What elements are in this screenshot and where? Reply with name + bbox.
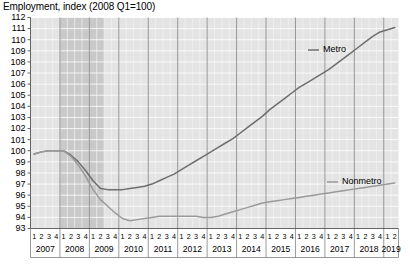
x-axis-quarter-label: 2: [128, 232, 132, 241]
x-axis-quarter-label: 1: [268, 232, 272, 241]
x-axis-quarter-label: 1: [385, 232, 389, 241]
x-axis-quarter-label: 4: [113, 232, 117, 241]
y-axis-tick-label: 97: [15, 179, 25, 189]
y-axis-tick-label: 105: [10, 90, 25, 100]
x-axis-quarter-label: 4: [172, 232, 176, 241]
y-axis-tick-label: 101: [10, 135, 25, 145]
x-axis-quarter-label: 3: [76, 232, 80, 241]
y-axis-tick-label: 95: [15, 201, 25, 211]
x-axis-quarter-label: 2: [305, 232, 309, 241]
x-axis-quarter-label: 1: [179, 232, 183, 241]
y-axis-tick-label: 99: [15, 157, 25, 167]
x-axis-quarter-label: 1: [209, 232, 213, 241]
y-axis-tick-label: 111: [12, 23, 26, 33]
x-axis-quarter-label: 2: [98, 232, 102, 241]
x-axis-quarter-label: 4: [349, 232, 353, 241]
x-axis-quarter-label: 3: [282, 232, 286, 241]
x-axis-quarter-label: 3: [224, 232, 228, 241]
x-axis-year-label: 2008: [65, 244, 84, 254]
y-axis-tick-label: 112: [11, 12, 25, 22]
x-axis-quarter-label: 3: [165, 232, 169, 241]
x-axis-year-label: 2012: [183, 244, 202, 254]
x-axis-year-label: 2019: [382, 244, 401, 254]
x-axis-quarter-label: 1: [150, 232, 154, 241]
x-axis-quarter-label: 3: [341, 232, 345, 241]
x-axis-quarter-label: 4: [201, 232, 205, 241]
x-axis-quarter-label: 2: [157, 232, 161, 241]
y-axis-tick-label: 100: [10, 146, 25, 156]
x-axis-year-label: 2014: [242, 244, 261, 254]
x-axis-quarter-label: 4: [231, 232, 235, 241]
x-axis-quarter-label: 1: [121, 232, 125, 241]
x-axis-quarter-label: 1: [238, 232, 242, 241]
x-axis-quarter-label: 2: [187, 232, 191, 241]
x-axis: 1234200712342008123420091234201012342011…: [31, 229, 401, 258]
y-axis-tick-label: 98: [15, 168, 25, 178]
x-axis-quarter-label: 2: [246, 232, 250, 241]
x-axis-quarter-label: 1: [62, 232, 66, 241]
x-axis-quarter-label: 4: [143, 232, 147, 241]
x-axis-quarter-label: 3: [194, 232, 198, 241]
x-axis-quarter-label: 3: [135, 232, 139, 241]
x-axis-quarter-label: 2: [334, 232, 338, 241]
y-axis-tick-label: 109: [10, 46, 25, 56]
x-axis-year-label: 2018: [359, 244, 378, 254]
x-axis-year-label: 2016: [301, 244, 320, 254]
x-axis-year-label: 2015: [271, 244, 290, 254]
y-axis-tick-label: 102: [10, 123, 25, 133]
x-axis-quarter-label: 4: [84, 232, 88, 241]
y-axis: 1121111101091081071061051041031021011009…: [10, 12, 30, 233]
y-axis-tick-label: 103: [10, 112, 25, 122]
x-axis-quarter-label: 2: [40, 232, 44, 241]
x-axis-quarter-label: 3: [253, 232, 257, 241]
y-axis-tick-label: 93: [15, 223, 25, 233]
x-axis-quarter-label: 3: [106, 232, 110, 241]
x-axis-quarter-label: 1: [297, 232, 301, 241]
x-axis-quarter-label: 4: [378, 232, 382, 241]
x-axis-quarter-label: 3: [371, 232, 375, 241]
x-axis-quarter-label: 1: [32, 232, 36, 241]
x-axis-quarter-label: 2: [69, 232, 73, 241]
y-axis-tick-label: 108: [10, 57, 25, 67]
x-axis-year-label: 2010: [124, 244, 143, 254]
x-axis-quarter-label: 4: [319, 232, 323, 241]
y-axis-tick-label: 94: [15, 212, 25, 222]
x-axis-quarter-label: 3: [312, 232, 316, 241]
x-axis-quarter-label: 3: [47, 232, 51, 241]
x-axis-quarter-label: 1: [327, 232, 331, 241]
x-axis-quarter-label: 4: [290, 232, 294, 241]
x-axis-year-label: 2011: [154, 244, 173, 254]
x-axis-quarter-label: 2: [275, 232, 279, 241]
x-axis-quarter-label: 1: [91, 232, 95, 241]
chart-canvas: 1121111101091081071061051041031021011009…: [0, 0, 410, 266]
x-axis-quarter-label: 2: [393, 232, 397, 241]
x-axis-quarter-label: 4: [54, 232, 58, 241]
x-axis-quarter-label: 2: [363, 232, 367, 241]
employment-index-chart: Employment, index (2008 Q1=100) 11211111…: [0, 0, 410, 266]
x-axis-quarter-label: 1: [356, 232, 360, 241]
x-axis-year-label: 2009: [95, 244, 114, 254]
y-axis-tick-label: 107: [10, 68, 25, 78]
y-axis-tick-label: 104: [10, 101, 25, 111]
y-axis-tick-label: 106: [10, 79, 25, 89]
y-axis-tick-label: 110: [11, 35, 25, 45]
x-axis-year-label: 2007: [36, 244, 55, 254]
x-axis-quarter-label: 2: [216, 232, 220, 241]
y-axis-tick-label: 96: [15, 190, 25, 200]
legend-label-nonmetro: Nonmetro: [342, 176, 382, 186]
x-axis-year-label: 2017: [330, 244, 349, 254]
x-axis-quarter-label: 4: [260, 232, 264, 241]
x-axis-year-label: 2013: [212, 244, 231, 254]
legend-label-metro: Metro: [323, 44, 346, 54]
